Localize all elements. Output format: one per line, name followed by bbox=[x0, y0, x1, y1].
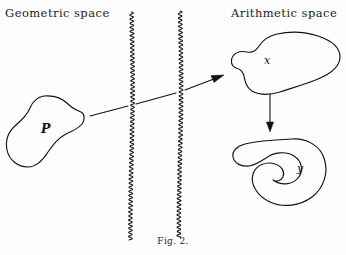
blob-x-label: x bbox=[264, 54, 271, 67]
arrow-x-to-y-head-icon bbox=[266, 122, 273, 132]
figure-2-container: Geometric space Arithmetic space P x y F… bbox=[0, 0, 346, 255]
blob-x-outline bbox=[231, 32, 340, 94]
arrow-P-to-x-segment-1 bbox=[90, 106, 128, 116]
wavy-divider-left-icon bbox=[129, 12, 135, 240]
figure-caption: Fig. 2. bbox=[0, 236, 346, 246]
blob-P-label: P bbox=[40, 121, 51, 136]
blob-y-outline bbox=[233, 139, 326, 206]
arrow-P-to-x-segment-2 bbox=[136, 93, 176, 104]
figure-drawing-layer: P x y bbox=[0, 0, 346, 255]
wavy-divider-right-icon bbox=[177, 11, 183, 238]
blob-y-label: y bbox=[296, 162, 304, 175]
arrow-P-to-x-head-icon bbox=[211, 75, 224, 83]
